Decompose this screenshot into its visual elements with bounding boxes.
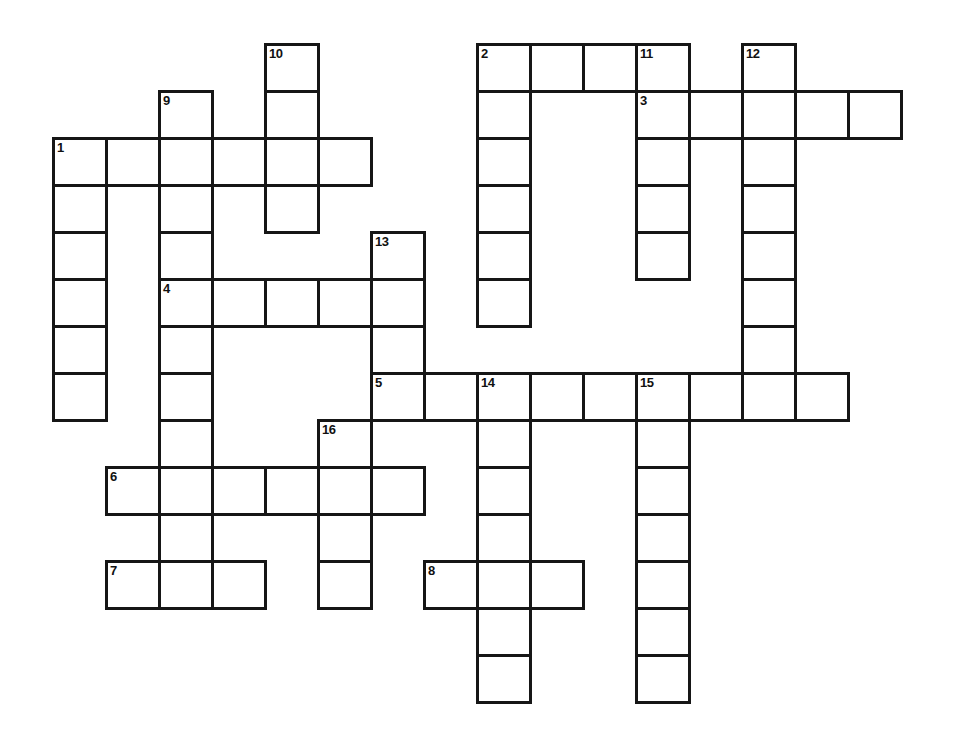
grid-cell[interactable]: [158, 231, 214, 281]
grid-cell[interactable]: [158, 137, 214, 187]
grid-cell[interactable]: [635, 231, 691, 281]
grid-cell[interactable]: [317, 560, 373, 610]
grid-cell[interactable]: [52, 325, 108, 375]
clue-number: 7: [110, 563, 117, 578]
clue-number: 13: [375, 234, 388, 249]
grid-cell-1[interactable]: 1: [52, 137, 108, 187]
grid-cell[interactable]: [476, 231, 532, 281]
grid-cell[interactable]: [582, 372, 638, 422]
crossword-page: 10211129311345141516678: [0, 0, 956, 750]
grid-cell[interactable]: [264, 90, 320, 140]
grid-cell[interactable]: [688, 372, 744, 422]
grid-cell[interactable]: [635, 419, 691, 469]
grid-cell[interactable]: [794, 372, 850, 422]
grid-cell-14[interactable]: 14: [476, 372, 532, 422]
grid-cell[interactable]: [317, 137, 373, 187]
grid-cell[interactable]: [741, 372, 797, 422]
grid-cell-4[interactable]: 4: [158, 278, 214, 328]
grid-cell[interactable]: [52, 184, 108, 234]
grid-cell[interactable]: [158, 372, 214, 422]
clue-number: 9: [163, 93, 170, 108]
grid-cell[interactable]: [211, 278, 267, 328]
grid-cell[interactable]: [370, 278, 426, 328]
grid-cell[interactable]: [264, 466, 320, 516]
grid-cell[interactable]: [317, 513, 373, 563]
grid-cell[interactable]: [52, 372, 108, 422]
grid-cell[interactable]: [476, 560, 532, 610]
grid-cell-9[interactable]: 9: [158, 90, 214, 140]
grid-cell[interactable]: [476, 466, 532, 516]
grid-cell[interactable]: [158, 325, 214, 375]
grid-cell[interactable]: [476, 278, 532, 328]
grid-cell[interactable]: [158, 184, 214, 234]
grid-cell[interactable]: [105, 137, 161, 187]
clue-number: 16: [322, 422, 335, 437]
grid-cell[interactable]: [476, 184, 532, 234]
grid-cell[interactable]: [476, 513, 532, 563]
clue-number: 14: [481, 375, 494, 390]
grid-cell[interactable]: [741, 184, 797, 234]
grid-cell[interactable]: [52, 231, 108, 281]
grid-cell[interactable]: [635, 513, 691, 563]
crossword-grid: 10211129311345141516678: [0, 0, 956, 750]
grid-cell[interactable]: [741, 325, 797, 375]
grid-cell-13[interactable]: 13: [370, 231, 426, 281]
clue-number: 2: [481, 46, 488, 61]
grid-cell[interactable]: [635, 137, 691, 187]
grid-cell-16[interactable]: 16: [317, 419, 373, 469]
grid-cell[interactable]: [635, 184, 691, 234]
grid-cell[interactable]: [635, 560, 691, 610]
grid-cell[interactable]: [158, 513, 214, 563]
grid-cell-15[interactable]: 15: [635, 372, 691, 422]
grid-cell-3[interactable]: 3: [635, 90, 691, 140]
grid-cell[interactable]: [158, 419, 214, 469]
grid-cell[interactable]: [317, 278, 373, 328]
grid-cell[interactable]: [741, 278, 797, 328]
grid-cell[interactable]: [264, 184, 320, 234]
grid-cell[interactable]: [211, 560, 267, 610]
grid-cell[interactable]: [529, 560, 585, 610]
clue-number: 8: [428, 563, 435, 578]
grid-cell[interactable]: [476, 137, 532, 187]
clue-number: 11: [640, 46, 653, 61]
grid-cell-10[interactable]: 10: [264, 43, 320, 93]
grid-cell[interactable]: [476, 90, 532, 140]
grid-cell[interactable]: [582, 43, 638, 93]
grid-cell[interactable]: [635, 654, 691, 704]
grid-cell[interactable]: [476, 654, 532, 704]
grid-cell-8[interactable]: 8: [423, 560, 479, 610]
clue-number: 1: [57, 140, 64, 155]
grid-cell-6[interactable]: 6: [105, 466, 161, 516]
clue-number: 10: [269, 46, 282, 61]
grid-cell[interactable]: [476, 607, 532, 657]
clue-number: 6: [110, 469, 117, 484]
grid-cell[interactable]: [794, 90, 850, 140]
grid-cell-2[interactable]: 2: [476, 43, 532, 93]
grid-cell-5[interactable]: 5: [370, 372, 426, 422]
grid-cell[interactable]: [476, 419, 532, 469]
grid-cell[interactable]: [529, 372, 585, 422]
grid-cell[interactable]: [423, 372, 479, 422]
grid-cell[interactable]: [264, 137, 320, 187]
grid-cell[interactable]: [211, 137, 267, 187]
grid-cell[interactable]: [635, 607, 691, 657]
grid-cell[interactable]: [635, 466, 691, 516]
grid-cell-11[interactable]: 11: [635, 43, 691, 93]
grid-cell[interactable]: [688, 90, 744, 140]
grid-cell[interactable]: [370, 325, 426, 375]
grid-cell[interactable]: [52, 278, 108, 328]
grid-cell[interactable]: [741, 90, 797, 140]
grid-cell[interactable]: [211, 466, 267, 516]
grid-cell[interactable]: [264, 278, 320, 328]
grid-cell[interactable]: [529, 43, 585, 93]
grid-cell[interactable]: [370, 466, 426, 516]
grid-cell-7[interactable]: 7: [105, 560, 161, 610]
grid-cell[interactable]: [847, 90, 903, 140]
clue-number: 5: [375, 375, 382, 390]
grid-cell[interactable]: [317, 466, 373, 516]
grid-cell[interactable]: [741, 137, 797, 187]
grid-cell[interactable]: [158, 466, 214, 516]
grid-cell[interactable]: [741, 231, 797, 281]
grid-cell-12[interactable]: 12: [741, 43, 797, 93]
grid-cell[interactable]: [158, 560, 214, 610]
